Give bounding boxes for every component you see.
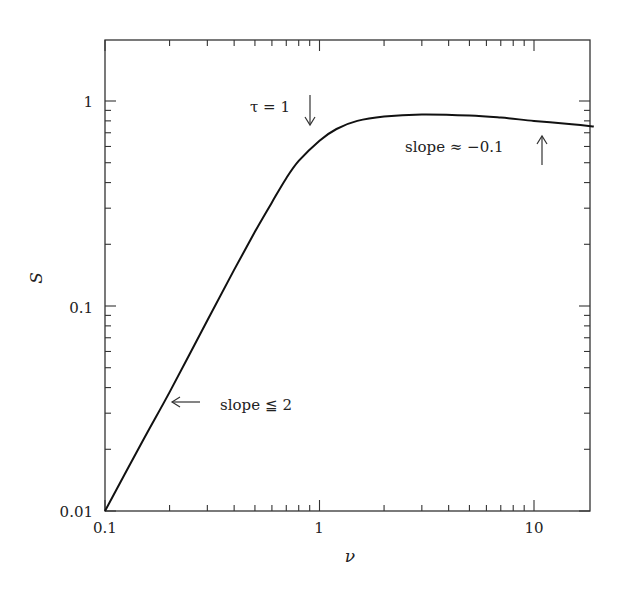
x-tick-label-1: 1 [314,519,324,537]
slope-low-annotation: slope ≦ 2 [220,396,292,414]
y-tick-label-0.01: 0.01 [60,503,93,521]
left-arrow-icon [172,397,200,407]
tau-annotation: τ = 1 [250,98,290,116]
spectrum-chart: 0.1 1 10 0.01 0.1 1 ν S τ = 1 slope ≈ −0… [0,0,618,595]
slope-high-annotation: slope ≈ −0.1 [405,138,504,156]
up-arrow-icon [537,136,547,165]
down-arrow-icon [305,95,315,125]
y-axis-title: S [26,272,46,284]
y-tick-label-0.1: 0.1 [69,299,93,317]
x-tick-label-0.1: 0.1 [93,519,117,537]
plot-frame [105,40,590,511]
x-tick-label-10: 10 [524,519,543,537]
x-axis-title: ν [345,546,355,566]
y-tick-label-1: 1 [83,93,93,111]
spectrum-curve [105,114,594,511]
y-axis-ticks [105,101,590,511]
x-axis-ticks [105,40,534,511]
